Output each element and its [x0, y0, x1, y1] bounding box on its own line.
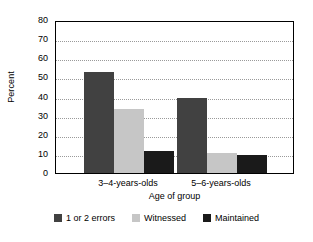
x-axis-title: Age of group — [55, 190, 294, 202]
bar-chart: Percent 01020304050607080 3–4-years-olds… — [0, 0, 313, 242]
y-axis-tick-label: 60 — [38, 54, 48, 63]
bar — [207, 153, 237, 173]
bar — [177, 98, 207, 173]
x-axis-tick-label: 5–6-years-olds — [191, 177, 251, 189]
bar-group — [84, 22, 174, 173]
legend-label: 1 or 2 errors — [66, 213, 115, 223]
bar-group — [177, 22, 267, 173]
y-axis-tick-label: 0 — [43, 169, 48, 178]
plot-area — [55, 21, 294, 174]
y-axis-tick-labels: 01020304050607080 — [20, 21, 52, 174]
x-axis-tick-labels: 3–4-years-olds5–6-years-olds — [55, 177, 294, 191]
bar — [84, 72, 114, 173]
legend-swatch-icon — [203, 214, 211, 222]
y-axis-tick-label: 10 — [38, 150, 48, 159]
bar — [114, 109, 144, 173]
y-axis-tick-label: 30 — [38, 112, 48, 121]
bar — [144, 151, 174, 173]
legend-swatch-icon — [132, 214, 140, 222]
legend-item: Maintained — [203, 213, 259, 223]
legend-label: Witnessed — [144, 213, 186, 223]
bars-layer — [56, 22, 293, 173]
legend-label: Maintained — [215, 213, 259, 223]
legend-swatch-icon — [54, 214, 62, 222]
bar — [237, 155, 267, 173]
y-axis-tick-label: 40 — [38, 93, 48, 102]
legend-item: Witnessed — [132, 213, 186, 223]
y-axis-tick-label: 80 — [38, 16, 48, 25]
y-axis-tick-label: 20 — [38, 131, 48, 140]
x-axis-tick-label: 3–4-years-olds — [98, 177, 158, 189]
y-axis-tick-label: 70 — [38, 35, 48, 44]
y-axis-tick-label: 50 — [38, 73, 48, 82]
legend: 1 or 2 errorsWitnessedMaintained — [0, 213, 313, 223]
y-axis-title: Percent — [2, 0, 20, 174]
legend-item: 1 or 2 errors — [54, 213, 115, 223]
y-axis-title-text: Percent — [6, 71, 16, 103]
